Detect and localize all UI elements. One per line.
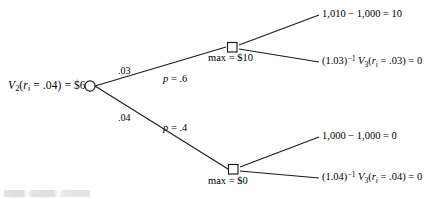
upper-decision-node-label: max = $10 xyxy=(208,53,253,64)
upper-branch-probability-label: p = .6 xyxy=(163,74,187,85)
root-rate-value: = .04) = $6 xyxy=(30,79,85,91)
tree-edges-and-nodes xyxy=(0,0,431,199)
upper-decision-node xyxy=(228,43,238,53)
payoff-exercise-down-label: 1,000 − 1,000 = 0 xyxy=(322,131,397,142)
upper-branch-rate-label: .03 xyxy=(118,66,131,76)
payoff-down-discount-exponent: −1 xyxy=(347,170,355,179)
payoff-exercise-up-label: 1,010 − 1,000 = 10 xyxy=(322,9,402,20)
lower-branch-rate-label: .04 xyxy=(118,113,131,123)
edge-lower-node-to-payoff-exercise xyxy=(240,137,319,167)
upper-probability-value: = .6 xyxy=(168,73,187,84)
clipped-caption-remnant xyxy=(4,190,90,197)
payoff-down-discount-base: (1.04) xyxy=(322,171,347,182)
payoff-up-discount-base: (1.03) xyxy=(322,55,347,66)
lower-decision-node-label: max = $0 xyxy=(208,176,248,187)
payoff-down-rate-value: = .04) = 0 xyxy=(378,171,422,182)
edge-lower-node-to-payoff-continue xyxy=(240,171,319,178)
lower-decision-node xyxy=(229,165,239,175)
root-chance-node xyxy=(85,81,95,91)
decision-tree-figure: V2(ri = .04) = $6 .03 .04 p = .6 p = .4 … xyxy=(0,0,431,199)
payoff-up-discount-exponent: −1 xyxy=(347,54,355,63)
lower-branch-probability-label: p = .4 xyxy=(163,123,187,134)
payoff-continue-down-label: (1.04)−1 V3(ri = .04) = 0 xyxy=(322,171,422,184)
edge-upper-node-to-payoff-exercise xyxy=(239,15,319,45)
root-value-label: V2(ri = .04) = $6 xyxy=(8,80,86,94)
lower-probability-value: = .4 xyxy=(168,122,187,133)
edge-root-to-lower-node xyxy=(95,86,228,169)
payoff-up-rate-value: = .03) = 0 xyxy=(378,55,422,66)
edge-root-to-upper-node xyxy=(95,47,226,86)
payoff-continue-up-label: (1.03)−1 V3(ri = .03) = 0 xyxy=(322,55,422,68)
